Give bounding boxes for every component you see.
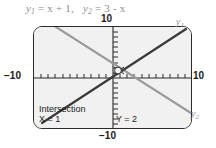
- y-axis-min-label: −10: [99, 130, 116, 141]
- y-axis-max-label: 10: [101, 13, 112, 24]
- curve-label-y2: y2: [191, 108, 199, 121]
- equation-y1: y1 = x + 1,: [26, 2, 74, 14]
- curve-label-y1: y1: [176, 16, 184, 29]
- x-axis-max-label: 10: [193, 70, 204, 81]
- intersection-heading: Intersection: [39, 104, 86, 114]
- calculator-graph-screenshot: y1 = x + 1, y2 = 3 - x: [0, 0, 216, 148]
- x-axis-min-label: −10: [4, 70, 21, 81]
- intersection-x-value: X = 1: [39, 114, 60, 124]
- intersection-y-value: Y = 2: [116, 114, 137, 124]
